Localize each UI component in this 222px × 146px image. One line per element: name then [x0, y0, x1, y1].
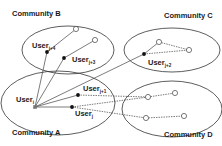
community-c-label: Community C [164, 11, 213, 20]
user-j+4-label: Userj+4 [32, 41, 56, 51]
user-i-label: Useri [16, 95, 34, 105]
community-b-label: Community B [12, 9, 61, 18]
dashed-edge [78, 95, 148, 97]
open-node-icon [92, 37, 97, 42]
community-d-ellipse [122, 81, 222, 137]
open-node-icon [73, 26, 78, 31]
community-diagram: Community ACommunity BCommunity CCommuni… [0, 0, 222, 146]
dashed-edge [72, 97, 148, 107]
dashed-edge [146, 116, 184, 118]
community-b-ellipse [22, 26, 114, 74]
user-j+4-node-icon [45, 50, 49, 54]
open-node-icon [145, 94, 150, 99]
user-j+2-node-icon [142, 52, 146, 56]
user-j-label: Userj [75, 109, 93, 119]
user-i-node-icon [33, 105, 37, 109]
open-node-icon [143, 115, 148, 120]
user-j+3-label: Userj+3 [72, 55, 96, 65]
user-j+1-node-icon [76, 93, 80, 97]
community-d-label: Community D [164, 130, 213, 139]
user-j+1-label: Userj+1 [83, 84, 107, 94]
user-j+2-label: Userj+2 [148, 58, 172, 68]
open-node-icon [156, 39, 161, 44]
user-j-node-icon [70, 105, 74, 109]
community-a-label: Community A [12, 128, 61, 137]
open-node-icon [181, 113, 186, 118]
dashed-edge [148, 93, 175, 97]
open-node-icon [172, 90, 177, 95]
dashed-edge [159, 42, 189, 50]
community-c-ellipse [124, 28, 220, 72]
dashed-edge [144, 50, 189, 54]
solid-edge [35, 52, 47, 107]
user-j+3-node-icon [62, 56, 66, 60]
open-node-icon [186, 47, 191, 52]
